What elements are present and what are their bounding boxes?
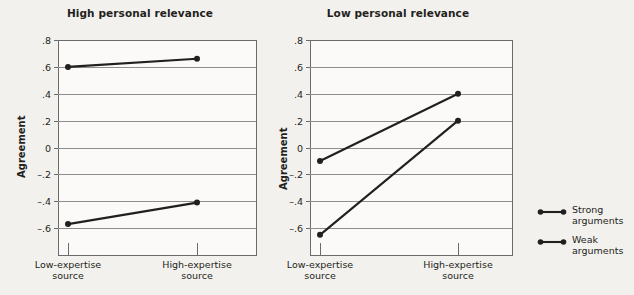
y-tick-label: .6 [294,62,303,73]
data-point [194,56,200,62]
plot-area-high-relevance: .8.6.4.20–.2–.4–.6Low-expertisesourceHig… [0,0,262,295]
y-tick-label: .4 [42,89,51,100]
plot-area-low-relevance: .8.6.4.20–.2–.4–.6Low-expertisesourceHig… [262,0,524,295]
figure-root: High personal relevance Agreement .8.6.4… [0,0,634,295]
data-point [455,118,461,124]
y-tick-label: .2 [42,116,51,127]
legend-label-weak-arguments: Weakarguments [572,235,623,256]
y-tick-label: –.2 [289,169,303,180]
chart-legend: Strongarguments Weakarguments [537,205,632,265]
y-tick-label: –.6 [289,223,303,234]
x-tick-label: source [442,270,474,281]
y-tick-label: .2 [294,116,303,127]
x-tick-label: Low-expertise [287,259,354,270]
legend-item-strong-arguments: Strongarguments [537,205,632,226]
x-tick-label: source [181,270,213,281]
y-tick-label: –.6 [37,223,51,234]
y-tick-label: .8 [42,35,51,46]
legend-label-weak-line2: arguments [572,245,623,256]
x-tick-label: Low-expertise [35,259,102,270]
x-tick-label: source [52,270,84,281]
data-point [194,200,200,206]
data-point [65,221,71,227]
y-tick-label: .8 [294,35,303,46]
legend-marker-weak-arguments [537,236,567,248]
x-tick-label: source [304,270,336,281]
y-tick-label: 0 [45,143,51,154]
y-tick-label: –.4 [289,196,303,207]
x-tick-label: High-expertise [423,259,493,270]
legend-label-strong-line1: Strong [572,204,603,215]
chart-panel-low-relevance: Low personal relevance Agreement .8.6.4.… [262,0,524,295]
legend-label-weak-line1: Weak [572,234,598,245]
y-tick-label: .6 [42,62,51,73]
data-point [317,158,323,164]
chart-panel-high-relevance: High personal relevance Agreement .8.6.4… [0,0,262,295]
y-tick-label: –.4 [37,196,51,207]
y-tick-label: .4 [294,89,303,100]
data-point [317,232,323,238]
data-point [455,91,461,97]
legend-item-weak-arguments: Weakarguments [537,235,632,256]
data-point [65,64,71,70]
legend-marker-strong-arguments [537,206,567,218]
x-tick-label: High-expertise [162,259,232,270]
y-tick-label: –.2 [37,169,51,180]
legend-label-strong-line2: arguments [572,215,623,226]
y-tick-label: 0 [297,143,303,154]
legend-label-strong-arguments: Strongarguments [572,205,623,226]
